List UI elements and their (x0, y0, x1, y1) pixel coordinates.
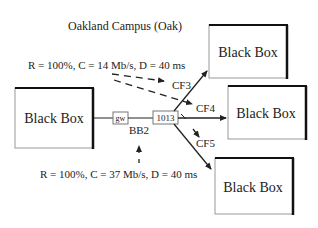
router-label: 1013 (157, 113, 176, 123)
right-middle-box-label: Black Box (236, 106, 296, 121)
campus-label: Oakland Campus (Oak) (68, 19, 182, 33)
right-top-box-label: Black Box (218, 45, 278, 60)
right-middle-black-box[interactable]: Black Box (228, 86, 307, 140)
left-box-label: Black Box (24, 111, 84, 126)
gateway-label: gw (116, 114, 126, 123)
left-black-box[interactable]: Black Box (15, 88, 94, 149)
right-bottom-black-box[interactable]: Black Box (215, 158, 294, 215)
flow-label-cf5: CF5 (196, 137, 215, 149)
top-annotation: R = 100%, C = 14 Mb/s, D = 40 ms (28, 59, 185, 71)
right-bottom-box-label: Black Box (223, 180, 283, 195)
dashed-arrow-cf3 (112, 74, 164, 81)
right-top-black-box[interactable]: Black Box (209, 25, 288, 79)
backbone-label: BB2 (129, 124, 149, 136)
flow-label-cf4: CF4 (196, 102, 215, 114)
router-node[interactable]: 1013 (153, 111, 178, 124)
flow-label-cf3: CF3 (172, 79, 191, 91)
network-diagram: Oakland Campus (Oak) Black Box Black Box… (0, 0, 318, 228)
bottom-annotation: R = 100%, C = 37 Mb/s, D = 40 ms (40, 168, 197, 180)
gateway-node[interactable]: gw (113, 112, 128, 124)
cf5-arrow (193, 129, 199, 137)
